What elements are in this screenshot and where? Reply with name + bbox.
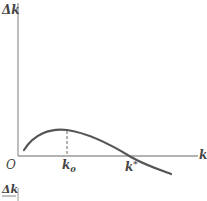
kstar-label: k* xyxy=(125,159,138,173)
kstar-superscript: * xyxy=(133,158,137,168)
delta-k-curve xyxy=(24,130,171,174)
origin-label: O xyxy=(6,159,16,171)
bottom-fraction-label: Δk xyxy=(2,184,18,195)
diagram-canvas xyxy=(0,0,207,201)
k0-subscript: 0 xyxy=(70,164,76,174)
x-axis-label: k xyxy=(199,149,207,161)
y-axis-label: Δk xyxy=(2,4,20,16)
k0-label: k0 xyxy=(62,159,76,173)
